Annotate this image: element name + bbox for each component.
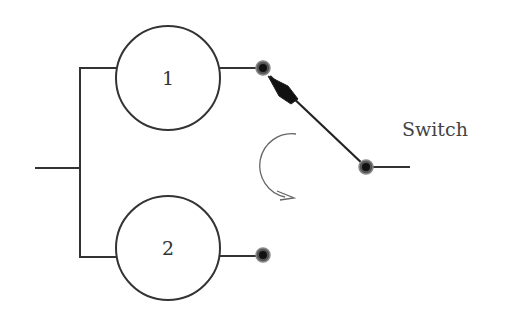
circuit-diagram: 1 2 Switch <box>0 0 509 316</box>
contact-1-dot-icon <box>256 61 270 75</box>
node-2: 2 <box>116 196 220 300</box>
switch-blade-icon <box>268 76 298 104</box>
node-2-label: 2 <box>162 237 174 259</box>
contact-2-dot-icon <box>256 248 270 262</box>
switch-label: Switch <box>402 118 468 140</box>
node-1: 1 <box>116 26 220 130</box>
pivot-dot-icon <box>359 160 373 174</box>
node-1-label: 1 <box>162 67 174 89</box>
rotation-arrow-icon <box>260 134 296 200</box>
